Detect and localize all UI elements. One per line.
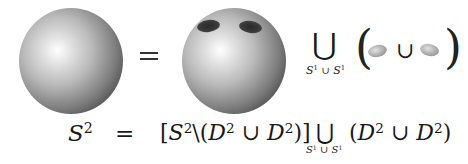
hole-left — [196, 18, 220, 33]
union-subscript-bottom: S1 ∪ S1 — [306, 144, 342, 155]
equals-sign-bottom: = — [115, 120, 134, 146]
disk-union-op: ∪ — [396, 38, 414, 63]
bt-d1: D — [208, 120, 226, 145]
sub-s-right-sup: 1 — [341, 64, 345, 72]
setminus: \ — [192, 120, 199, 145]
sphere-with-two-holes — [182, 8, 286, 114]
disk-right — [419, 42, 440, 58]
big-union-top: ⋃ — [312, 30, 337, 60]
dt-d1-sup: 2 — [375, 120, 384, 136]
dt-d1: D — [358, 120, 376, 145]
bt-d1-sup: 2 — [226, 120, 235, 136]
open-bracket: [ — [160, 120, 169, 145]
sphere-s2 — [19, 8, 123, 114]
hole-right — [238, 19, 262, 34]
bt-close: )] — [293, 120, 310, 145]
bsub-cup: ∪ — [320, 144, 328, 155]
big-union-bottom: ⋃ — [316, 121, 334, 145]
bracket-term: [S2\(D2 ∪ D2)] — [160, 120, 311, 145]
sub-s-left-sup: 1 — [314, 64, 318, 72]
dt-cup: ∪ — [391, 120, 409, 145]
bt-cup: ∪ — [242, 120, 260, 145]
dt-d2-sup: 2 — [434, 120, 443, 136]
bt-s: S — [169, 120, 184, 145]
dt-d2: D — [416, 120, 434, 145]
sub-cup: ∪ — [321, 65, 329, 76]
dt-close-paren: ) — [443, 120, 452, 145]
bt-d2: D — [267, 120, 285, 145]
disk-term: (D2 ∪ D2) — [349, 120, 451, 145]
sub-s-left: S — [306, 64, 314, 77]
union-subscript-top: S1 ∪ S1 — [306, 64, 345, 77]
bsub-s-left: S — [306, 144, 313, 155]
lhs-s2: S2 — [68, 120, 93, 146]
equals-bar-lower — [140, 58, 158, 60]
bsub-s-left-sup: 1 — [313, 144, 317, 151]
bsub-s-right-sup: 1 — [338, 144, 342, 151]
dt-open-paren: ( — [349, 120, 358, 145]
lhs-sup: 2 — [84, 120, 93, 136]
equals-bar-upper — [140, 52, 158, 54]
sub-s-right: S — [333, 64, 341, 77]
close-paren-top: ) — [444, 22, 462, 72]
lhs-base: S — [68, 120, 84, 146]
